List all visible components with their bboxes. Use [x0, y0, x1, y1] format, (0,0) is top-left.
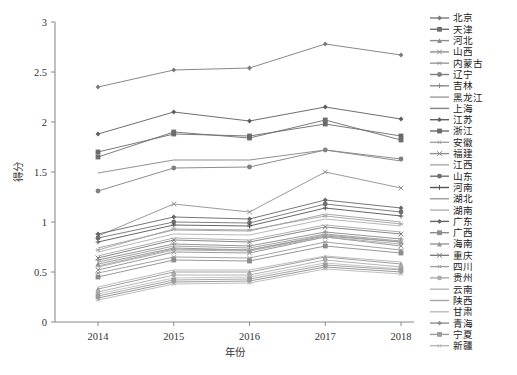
- legend-label: 北京: [453, 12, 473, 23]
- marker-circle: [171, 166, 176, 171]
- legend-label: 安徽: [453, 137, 473, 148]
- marker-diamond: [323, 42, 328, 47]
- legend-label: 黑龙江: [453, 92, 483, 103]
- legend-item-贵州[interactable]: 贵州: [430, 272, 473, 283]
- legend-item-江西[interactable]: 江西: [430, 159, 473, 170]
- marker-square: [96, 275, 101, 280]
- legend-item-陕西[interactable]: 陕西: [430, 295, 473, 306]
- legend-item-北京[interactable]: 北京: [430, 12, 473, 23]
- legend-label: 天津: [453, 24, 473, 35]
- legend-label: 青海: [453, 318, 473, 329]
- legend-item-山西[interactable]: 山西: [430, 46, 473, 57]
- legend-item-云南[interactable]: 云南: [430, 284, 473, 295]
- legend-item-浙江[interactable]: 浙江: [430, 125, 473, 136]
- legend-item-广东[interactable]: 广东: [430, 216, 473, 227]
- legend-item-广西[interactable]: 广西: [430, 227, 473, 238]
- legend-item-山东[interactable]: 山东: [430, 171, 473, 182]
- marker-circle: [437, 276, 442, 281]
- legend-item-上海[interactable]: 上海: [430, 103, 473, 114]
- legend-label: 吉林: [453, 80, 473, 91]
- marker-square: [437, 332, 442, 337]
- marker-star: [399, 222, 404, 225]
- legend-label: 福建: [453, 148, 473, 159]
- marker-diamond: [247, 66, 252, 71]
- legend-label: 内蒙古: [453, 58, 483, 69]
- legend-item-天津[interactable]: 天津: [430, 24, 473, 35]
- y-tick-label: 2: [42, 117, 47, 128]
- marker-circle: [437, 72, 442, 77]
- legend-item-福建[interactable]: 福建: [430, 148, 473, 159]
- marker-star: [437, 265, 442, 268]
- marker-square: [171, 132, 176, 137]
- marker-diamond: [96, 132, 101, 137]
- legend-item-安徽[interactable]: 安徽: [430, 137, 473, 148]
- legend-label: 贵州: [453, 272, 473, 283]
- legend-item-辽宁[interactable]: 辽宁: [430, 69, 473, 80]
- marker-star: [96, 271, 101, 274]
- series-浙江: [96, 122, 404, 155]
- legend-item-重庆[interactable]: 重庆: [430, 250, 473, 261]
- legend-item-湖南[interactable]: 湖南: [430, 205, 473, 216]
- marker-star: [437, 344, 442, 347]
- marker-diamond: [399, 206, 404, 211]
- legend-item-新疆[interactable]: 新疆: [430, 340, 473, 351]
- marker-square: [399, 134, 404, 139]
- y-tick-label: 2.5: [34, 67, 47, 78]
- marker-square: [247, 134, 252, 139]
- legend-label: 河南: [453, 182, 473, 193]
- marker-circle: [437, 174, 442, 179]
- legend-item-江苏[interactable]: 江苏: [430, 114, 473, 125]
- marker-square: [96, 155, 101, 160]
- marker-diamond: [323, 105, 328, 110]
- x-tick-label: 2015: [163, 331, 184, 342]
- marker-square: [437, 230, 442, 235]
- marker-circle: [247, 165, 252, 170]
- legend-item-甘肃[interactable]: 甘肃: [430, 306, 473, 317]
- marker-plus: [437, 83, 442, 88]
- legend-label: 云南: [453, 284, 473, 295]
- series-line: [98, 44, 401, 87]
- series-宁夏: [96, 263, 404, 299]
- x-tick-label: 2016: [239, 331, 260, 342]
- marker-diamond: [437, 117, 442, 122]
- legend-label: 辽宁: [453, 69, 473, 80]
- legend-item-海南[interactable]: 海南: [430, 238, 473, 249]
- legend-item-河南[interactable]: 河南: [430, 182, 473, 193]
- legend-label: 上海: [453, 103, 473, 114]
- legend-label: 宁夏: [453, 329, 473, 340]
- legend-item-黑龙江[interactable]: 黑龙江: [430, 92, 483, 103]
- legend-item-内蒙古[interactable]: 内蒙古: [430, 58, 483, 69]
- marker-square: [437, 129, 442, 134]
- legend-item-四川[interactable]: 四川: [430, 261, 473, 272]
- marker-square: [171, 278, 176, 283]
- marker-plus: [437, 185, 442, 190]
- legend-label: 四川: [453, 261, 473, 272]
- legend-item-吉林[interactable]: 吉林: [430, 80, 473, 91]
- legend-item-湖北[interactable]: 湖北: [430, 193, 473, 204]
- legend-label: 江西: [453, 159, 473, 170]
- marker-square: [323, 263, 328, 268]
- legend-item-宁夏[interactable]: 宁夏: [430, 329, 473, 340]
- marker-diamond: [171, 110, 176, 115]
- legend-label: 海南: [453, 238, 473, 249]
- x-tick-label: 2014: [88, 331, 110, 342]
- legend-label: 新疆: [453, 340, 473, 351]
- legend-label: 山西: [453, 46, 473, 57]
- marker-diamond: [247, 217, 252, 222]
- marker-square: [323, 122, 328, 127]
- legend-label: 河北: [453, 35, 473, 46]
- legend-item-青海[interactable]: 青海: [430, 318, 473, 329]
- marker-star: [323, 240, 328, 243]
- marker-diamond: [171, 215, 176, 220]
- marker-diamond: [247, 119, 252, 124]
- series-北京: [96, 42, 404, 90]
- marker-square: [247, 277, 252, 282]
- marker-square: [437, 27, 442, 32]
- legend-label: 山东: [453, 171, 473, 182]
- y-tick-label: 0: [42, 317, 47, 328]
- y-tick-label: 3: [42, 17, 47, 28]
- marker-square: [323, 244, 328, 249]
- legend-item-河北[interactable]: 河北: [430, 35, 473, 46]
- marker-plus: [96, 240, 101, 245]
- series-天津: [96, 118, 404, 160]
